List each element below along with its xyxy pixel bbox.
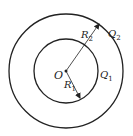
q1-label: Q1 (100, 69, 113, 83)
concentric-shells-diagram: O R2 Q2 R1 Q1 (0, 0, 133, 136)
center-label: O (54, 69, 63, 82)
r2-label: R2 (80, 29, 93, 43)
r1-label: R1 (63, 79, 76, 93)
